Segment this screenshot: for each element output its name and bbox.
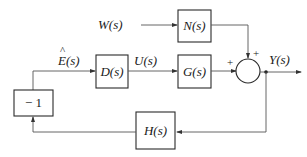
sum-left-sign: + bbox=[227, 56, 233, 68]
y-signal-label: Y(s) bbox=[269, 52, 290, 67]
e-hat-accent: ^ bbox=[60, 44, 66, 56]
g-block-label: G(s) bbox=[183, 64, 206, 79]
negation-block-label: − 1 bbox=[25, 95, 42, 110]
feedback-wire-to-neg bbox=[33, 117, 136, 132]
summing-junction bbox=[236, 59, 260, 83]
d-block-label: D(s) bbox=[99, 64, 123, 79]
n-block-label: N(s) bbox=[182, 18, 205, 33]
w-signal-label: W(s) bbox=[98, 17, 123, 32]
n-output-wire bbox=[211, 25, 248, 58]
h-block-label: H(s) bbox=[143, 123, 167, 138]
u-signal-label: U(s) bbox=[134, 53, 157, 68]
sum-top-sign: + bbox=[253, 47, 259, 59]
block-diagram: W(s) N(s) E(s) ^ D(s) U(s) G(s) + + Y(s)… bbox=[0, 0, 307, 157]
e-wire bbox=[33, 71, 95, 90]
